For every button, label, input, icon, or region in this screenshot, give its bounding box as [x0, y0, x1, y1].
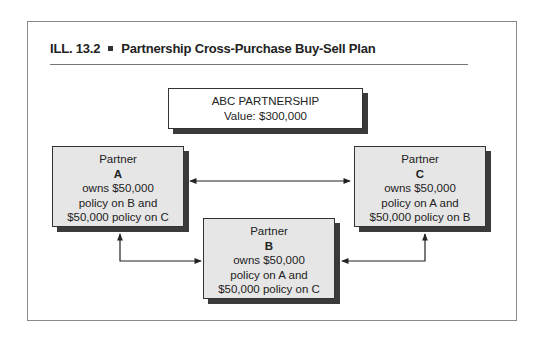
arrow-a-b — [120, 234, 201, 261]
arrow-c-b — [342, 234, 425, 261]
connector-arrows — [0, 0, 545, 342]
